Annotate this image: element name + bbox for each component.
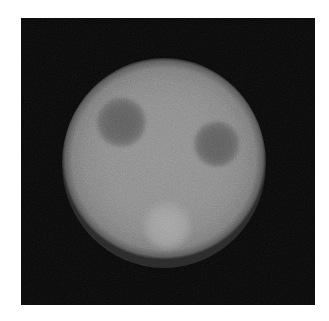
- hot-spot-lower: [141, 199, 193, 251]
- scan-figure: [0, 0, 329, 321]
- cold-spot-left: [95, 96, 147, 148]
- scan-image-field[interactable]: [21, 18, 315, 305]
- cold-spot-right: [193, 120, 241, 168]
